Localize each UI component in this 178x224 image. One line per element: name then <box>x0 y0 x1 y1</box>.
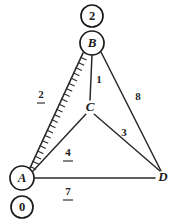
edge-b-c[interactable] <box>90 55 92 100</box>
edge-weight-a-d-text: 7 <box>65 185 71 197</box>
node-c[interactable]: C <box>83 99 97 115</box>
node-b-label: B <box>87 35 97 50</box>
node-a-label: A <box>17 170 27 185</box>
node-layer: B C A D <box>10 31 170 190</box>
edge-a-b-hatching <box>30 57 87 169</box>
edge-weight-a-d: 7 <box>63 185 73 200</box>
node-d-label: D <box>157 169 168 184</box>
edge-weight-b-d-text: 8 <box>135 90 141 102</box>
edge-weight-layer: 2 1 8 4 3 7 <box>37 73 141 200</box>
edge-b-c-line <box>90 55 92 100</box>
edge-weight-c-d: 3 <box>121 126 127 138</box>
edge-weight-a-b-text: 2 <box>38 88 44 100</box>
edge-weight-c-a: 4 <box>63 146 73 161</box>
node-b[interactable]: B <box>80 31 104 55</box>
node-c-label: C <box>86 99 95 114</box>
edge-c-d[interactable] <box>94 114 160 171</box>
edge-c-d-line <box>94 114 160 171</box>
value-badge-a[interactable]: 0 <box>11 196 33 218</box>
edge-weight-b-c: 1 <box>96 73 102 85</box>
node-d[interactable]: D <box>156 169 170 185</box>
edge-weight-c-d-text: 3 <box>121 126 127 138</box>
edge-weight-c-a-text: 4 <box>65 146 71 158</box>
value-badge-b-label: 2 <box>89 9 95 23</box>
edge-a-b[interactable] <box>30 53 87 169</box>
value-badge-a-label: 0 <box>19 200 25 214</box>
graph-canvas: 2 1 8 4 3 7 <box>0 0 178 224</box>
edge-weight-b-c-text: 1 <box>96 73 102 85</box>
edge-b-d[interactable] <box>101 52 161 171</box>
edge-layer <box>30 52 161 178</box>
graph-figure: 2 1 8 4 3 7 <box>0 0 178 224</box>
edge-weight-b-d: 8 <box>135 90 141 102</box>
edge-b-d-line <box>101 52 161 171</box>
edge-weight-a-b: 2 <box>37 88 45 103</box>
node-a[interactable]: A <box>10 166 34 190</box>
value-badge-b[interactable]: 2 <box>81 5 103 27</box>
